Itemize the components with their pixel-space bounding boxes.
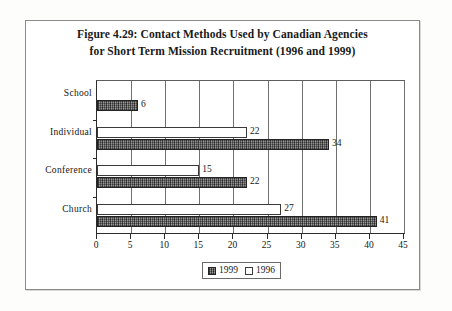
bar-group-conference: 1522 xyxy=(97,158,404,197)
x-axis-label-45: 45 xyxy=(398,240,408,250)
legend-swatch-1996 xyxy=(245,267,253,275)
bar-1999-individual xyxy=(97,139,329,150)
legend-item-1996: 1996 xyxy=(245,265,275,276)
bar-1996-church xyxy=(97,204,281,215)
x-axis-tick-10 xyxy=(164,234,165,239)
legend-swatch-1999 xyxy=(208,267,216,275)
x-axis-label-40: 40 xyxy=(364,240,374,250)
bar-chart: SchoolIndividualConferenceChurch 6223415… xyxy=(0,0,452,311)
scanned-page: Figure 4.29: Contact Methods Used by Can… xyxy=(0,0,452,311)
x-axis-label-10: 10 xyxy=(159,240,169,250)
x-axis-tick-35 xyxy=(335,234,336,239)
bar-value-1999-individual: 34 xyxy=(332,138,342,149)
y-axis-tick-2 xyxy=(93,158,97,159)
x-axis-label-25: 25 xyxy=(262,240,272,250)
gridline-45 xyxy=(404,81,405,233)
x-axis: 051015202530354045 xyxy=(96,234,405,256)
y-axis-tick-3 xyxy=(93,197,97,198)
category-label-individual: Individual xyxy=(50,127,92,137)
bar-value-1996-individual: 22 xyxy=(250,126,260,137)
category-label-school: School xyxy=(64,88,92,98)
bar-group-church: 2741 xyxy=(97,197,404,236)
x-axis-tick-30 xyxy=(301,234,302,239)
chart-legend: 19991996 xyxy=(202,262,281,279)
bar-value-1999-church: 41 xyxy=(380,215,390,226)
bar-group-individual: 2234 xyxy=(97,120,404,159)
bar-value-1996-conference: 15 xyxy=(202,164,212,175)
bar-1996-conference xyxy=(97,165,199,176)
x-axis-tick-20 xyxy=(232,234,233,239)
x-axis-tick-15 xyxy=(198,234,199,239)
x-axis-label-15: 15 xyxy=(194,240,204,250)
bar-group-school: 6 xyxy=(97,81,404,120)
legend-item-1999: 1999 xyxy=(208,265,238,276)
bar-1999-school xyxy=(97,100,138,111)
x-axis-tick-0 xyxy=(96,234,97,239)
bar-value-1996-church: 27 xyxy=(284,203,294,214)
bar-1999-church xyxy=(97,216,377,227)
x-axis-label-0: 0 xyxy=(94,240,99,250)
legend-label-1996: 1996 xyxy=(256,265,275,276)
x-axis-tick-5 xyxy=(130,234,131,239)
category-label-conference: Conference xyxy=(45,165,92,175)
legend-label-1999: 1999 xyxy=(219,265,238,276)
x-axis-tick-25 xyxy=(267,234,268,239)
bar-1996-individual xyxy=(97,127,247,138)
bar-1999-conference xyxy=(97,177,247,188)
x-axis-label-20: 20 xyxy=(228,240,238,250)
x-axis-label-30: 30 xyxy=(296,240,306,250)
plot-area: 6223415222741 xyxy=(96,80,405,234)
bar-value-1999-school: 6 xyxy=(141,99,146,110)
bar-value-1999-conference: 22 xyxy=(250,176,260,187)
x-axis-label-35: 35 xyxy=(330,240,340,250)
x-axis-tick-45 xyxy=(403,234,404,239)
y-axis-tick-1 xyxy=(93,120,97,121)
y-axis-category-labels: SchoolIndividualConferenceChurch xyxy=(10,80,92,234)
category-label-church: Church xyxy=(62,204,92,214)
x-axis-label-5: 5 xyxy=(128,240,133,250)
x-axis-tick-40 xyxy=(369,234,370,239)
